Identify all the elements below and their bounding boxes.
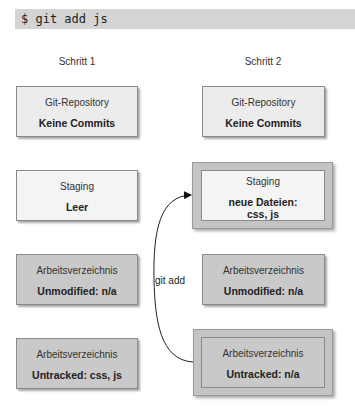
git-add-edge-label: git add xyxy=(155,275,185,286)
git-add-arrow xyxy=(0,0,355,414)
